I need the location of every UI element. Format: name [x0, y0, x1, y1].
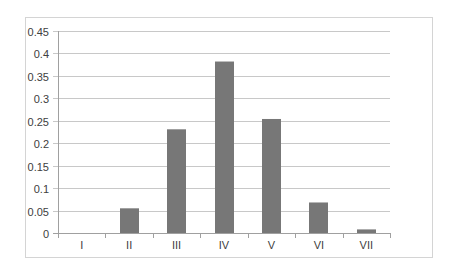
bar-iii — [167, 129, 186, 233]
y-tick-label: 0 — [43, 228, 49, 240]
y-tick-label: 0.4 — [34, 48, 49, 60]
x-tick-label: VI — [314, 239, 324, 251]
y-axis: 00.050.10.150.20.250.30.350.40.45 — [28, 26, 59, 240]
bar-chart: 00.050.10.150.20.250.30.350.40.45 IIIIII… — [0, 0, 453, 274]
bar-ii — [120, 208, 139, 233]
bar-vii — [357, 229, 376, 233]
y-tick-label: 0.05 — [28, 206, 49, 218]
x-tick-label: IV — [219, 239, 230, 251]
x-tick-label: V — [268, 239, 276, 251]
x-tick-label: I — [80, 239, 83, 251]
bar-vi — [309, 202, 328, 233]
x-tick-label: III — [172, 239, 181, 251]
y-tick-label: 0.35 — [28, 71, 49, 83]
y-tick-label: 0.1 — [34, 183, 49, 195]
x-tick-label: II — [126, 239, 132, 251]
x-axis: IIIIIIIVVVIVII — [53, 233, 391, 251]
y-tick-label: 0.3 — [34, 93, 49, 105]
y-tick-label: 0.45 — [28, 26, 49, 38]
x-tick-label: VII — [360, 239, 373, 251]
bars — [120, 62, 376, 233]
y-tick-label: 0.25 — [28, 116, 49, 128]
bar-v — [262, 119, 281, 233]
y-tick-label: 0.15 — [28, 161, 49, 173]
bar-iv — [215, 62, 234, 233]
y-tick-label: 0.2 — [34, 138, 49, 150]
